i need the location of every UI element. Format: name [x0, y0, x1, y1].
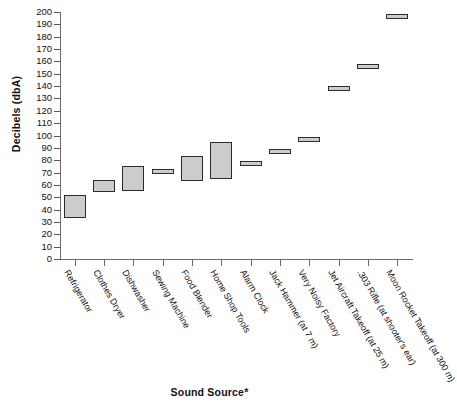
- y-tick-label: 20: [18, 229, 52, 239]
- x-tick-mark: [309, 260, 310, 266]
- x-tick-mark: [163, 260, 164, 266]
- y-tick-label: 130: [18, 94, 52, 104]
- x-tick-mark: [221, 260, 222, 266]
- x-category-label: Alarm Clock: [238, 268, 271, 315]
- y-tick-mark: [54, 148, 60, 149]
- y-tick-label: 90: [18, 143, 52, 153]
- y-tick-mark: [54, 12, 60, 13]
- range-bar: [298, 137, 320, 142]
- y-tick-mark: [54, 247, 60, 248]
- range-bar: [181, 156, 203, 181]
- x-tick-mark: [280, 260, 281, 266]
- y-tick-label: 50: [18, 192, 52, 202]
- y-tick-mark: [54, 160, 60, 161]
- y-tick-mark: [54, 24, 60, 25]
- y-tick-label: 190: [18, 20, 52, 30]
- y-tick-mark: [54, 185, 60, 186]
- x-tick-mark: [133, 260, 134, 266]
- y-tick-mark: [54, 98, 60, 99]
- range-bar: [240, 161, 262, 166]
- y-tick-mark: [54, 86, 60, 87]
- y-tick-mark: [54, 173, 60, 174]
- y-tick-mark: [54, 61, 60, 62]
- x-tick-mark: [397, 260, 398, 266]
- x-tick-mark: [104, 260, 105, 266]
- y-tick-label: 110: [18, 118, 52, 128]
- range-bar: [210, 142, 232, 179]
- range-bar: [328, 86, 350, 91]
- range-bar: [269, 149, 291, 154]
- x-category-label: Refrigerator: [62, 268, 94, 314]
- y-tick-label: 120: [18, 106, 52, 116]
- x-category-label: .303 Rifle (at shooter's ear): [355, 268, 418, 367]
- x-category-label: Dishwasher: [121, 268, 153, 314]
- y-tick-label: 60: [18, 180, 52, 190]
- y-tick-label: 160: [18, 57, 52, 66]
- y-tick-label: 150: [18, 69, 52, 79]
- x-axis-title: Sound Source*: [0, 386, 419, 398]
- x-tick-mark: [75, 260, 76, 266]
- y-tick-label: 70: [18, 168, 52, 178]
- x-tick-mark: [251, 260, 252, 266]
- y-tick-mark: [54, 37, 60, 38]
- y-tick-mark: [54, 210, 60, 211]
- x-tick-mark: [339, 260, 340, 266]
- y-tick-label: 200: [18, 7, 52, 17]
- y-tick-label: 0: [18, 254, 52, 264]
- y-tick-label: 10: [18, 242, 52, 252]
- range-bar: [64, 195, 86, 218]
- y-tick-mark: [54, 197, 60, 198]
- range-bar: [122, 166, 144, 191]
- y-tick-mark: [54, 123, 60, 124]
- x-tick-mark: [368, 260, 369, 266]
- y-tick-mark: [54, 234, 60, 235]
- y-tick-label: 80: [18, 155, 52, 165]
- y-tick-mark: [54, 222, 60, 223]
- y-tick-label: 100: [18, 131, 52, 141]
- y-tick-mark: [54, 259, 60, 260]
- x-axis-line: [60, 259, 413, 260]
- plot-area: [60, 12, 412, 259]
- y-tick-label: 170: [18, 44, 52, 54]
- y-tick-label: 30: [18, 217, 52, 227]
- y-tick-label: 140: [18, 81, 52, 91]
- range-bar: [93, 180, 115, 192]
- y-tick-mark: [54, 111, 60, 112]
- y-tick-label: 180: [18, 32, 52, 42]
- y-tick-mark: [54, 136, 60, 137]
- range-bar: [357, 64, 379, 69]
- x-tick-mark: [192, 260, 193, 266]
- y-tick-mark: [54, 74, 60, 75]
- y-tick-mark: [54, 49, 60, 50]
- y-axis-tick-labels: 0102030405060708090100110120130140150160…: [18, 0, 52, 260]
- range-bar: [386, 14, 408, 19]
- y-tick-label: 40: [18, 205, 52, 215]
- range-bar: [152, 169, 174, 174]
